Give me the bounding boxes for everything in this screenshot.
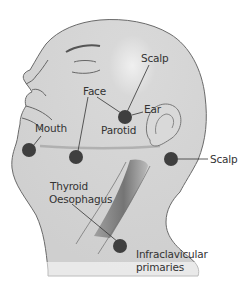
node-parotid: [118, 110, 132, 124]
node-face: [69, 150, 83, 164]
label-face: Face: [83, 85, 106, 97]
head-illustration: [0, 0, 245, 282]
node-neck-scalp: [164, 152, 178, 166]
node-mouth: [22, 143, 36, 157]
label-scalp-right: Scalp: [210, 153, 237, 165]
label-thyroid: Thyroid: [50, 180, 88, 192]
label-parotid: Parotid: [101, 124, 136, 136]
label-infraclavicular: Infraclavicular: [136, 248, 208, 260]
label-primaries: primaries: [136, 261, 184, 273]
head-neck-diagram: Scalp Face Ear Parotid Mouth Scalp Thyro…: [0, 0, 245, 282]
label-mouth: Mouth: [35, 122, 67, 134]
label-scalp-top: Scalp: [141, 52, 168, 64]
label-oesophagus: Oesophagus: [49, 193, 112, 205]
node-infraclavicular: [113, 239, 127, 253]
label-ear: Ear: [144, 103, 161, 115]
